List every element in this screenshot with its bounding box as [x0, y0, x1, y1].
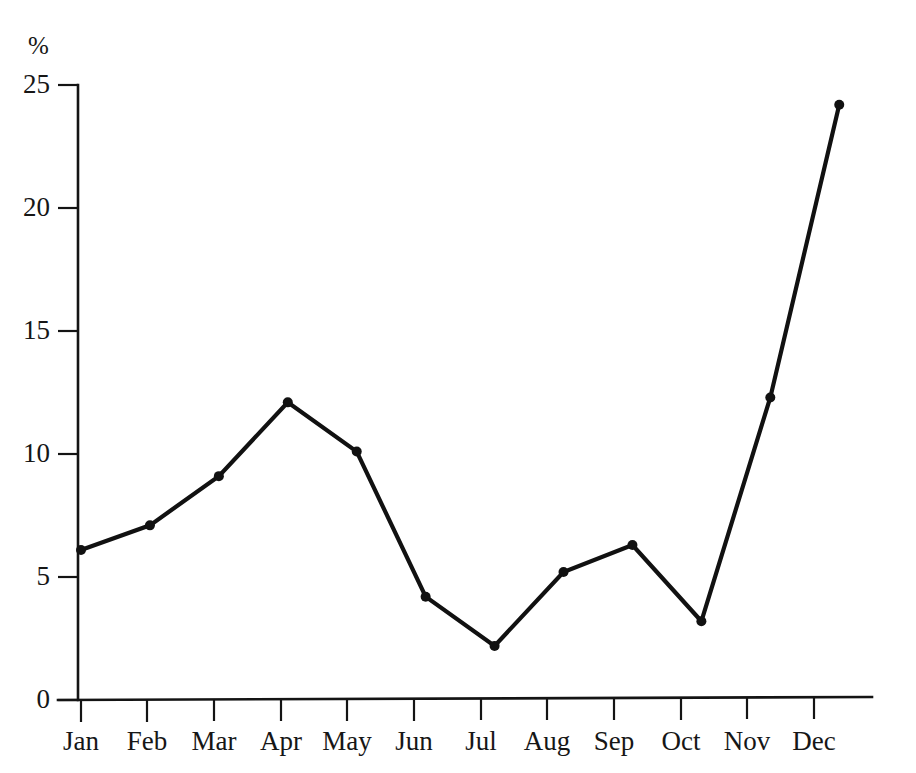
data-series-markers: [76, 100, 844, 651]
x-axis-label-dec: Dec: [774, 728, 854, 755]
y-axis-label-25: 25: [0, 71, 50, 98]
data-series-line: [81, 105, 839, 646]
data-point-feb: [145, 520, 155, 530]
y-axis-ticks: [58, 85, 78, 700]
data-point-jul: [490, 641, 500, 651]
x-axis-line: [58, 697, 872, 700]
chart-canvas: [0, 0, 916, 773]
data-point-may: [352, 447, 362, 457]
data-point-jan: [76, 545, 86, 555]
data-point-dec: [834, 100, 844, 110]
y-axis-label-0: 0: [0, 686, 50, 713]
data-point-aug: [559, 567, 569, 577]
line-chart-figure: % 25 20 15 10 5 0 Jan Feb Mar Apr May Ju…: [0, 0, 916, 773]
data-point-sep: [627, 540, 637, 550]
y-axis-label-10: 10: [0, 440, 50, 467]
data-point-mar: [214, 471, 224, 481]
data-point-jun: [421, 592, 431, 602]
y-axis-label-15: 15: [0, 317, 50, 344]
y-axis-label-5: 5: [0, 563, 50, 590]
data-point-apr: [283, 397, 293, 407]
data-point-nov: [765, 392, 775, 402]
y-axis-label-20: 20: [0, 194, 50, 221]
data-point-oct: [696, 616, 706, 626]
y-axis-unit-label: %: [28, 33, 49, 58]
